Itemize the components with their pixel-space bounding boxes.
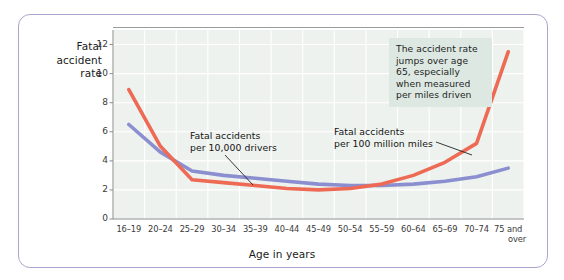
y-tick-label-4: 4 bbox=[88, 155, 108, 165]
x-tick-label-5: 40–44 bbox=[269, 224, 305, 234]
x-tick-label-6: 45–49 bbox=[301, 224, 337, 234]
x-tick-label-1: 20–24 bbox=[142, 224, 178, 234]
x-tick-label-9: 60–64 bbox=[395, 224, 431, 234]
y-tick-label-8: 8 bbox=[88, 97, 108, 107]
x-tick-label-3: 30–34 bbox=[206, 224, 242, 234]
y-tick-label-2: 2 bbox=[88, 184, 108, 194]
x-tick-label-8: 55–59 bbox=[364, 224, 400, 234]
x-tick-label-12: 75 andover bbox=[490, 224, 526, 244]
y-tick-label-10: 10 bbox=[88, 68, 108, 78]
note-per-miles: Fatal accidents per 100 million miles bbox=[334, 126, 433, 150]
note-per-drivers: Fatal accidents per 10,000 drivers bbox=[190, 130, 277, 154]
x-tick-label-7: 50–54 bbox=[332, 224, 368, 234]
y-tick-label-12: 12 bbox=[88, 39, 108, 49]
x-tick-label-11: 70–74 bbox=[459, 224, 495, 234]
x-axis-title: Age in years bbox=[0, 248, 564, 260]
chart-figure: Fatal accident rate 121086420 16–1920–24… bbox=[0, 0, 564, 280]
x-tick-label-10: 65–69 bbox=[427, 224, 463, 234]
y-tick-label-0: 0 bbox=[88, 213, 108, 223]
y-tick-label-6: 6 bbox=[88, 126, 108, 136]
x-tick-label-2: 25–29 bbox=[174, 224, 210, 234]
x-tick-label-0: 16–19 bbox=[111, 224, 147, 234]
x-tick-label-4: 35–39 bbox=[237, 224, 273, 234]
callout-age-65: The accident rate jumps over age 65, esp… bbox=[389, 38, 492, 107]
